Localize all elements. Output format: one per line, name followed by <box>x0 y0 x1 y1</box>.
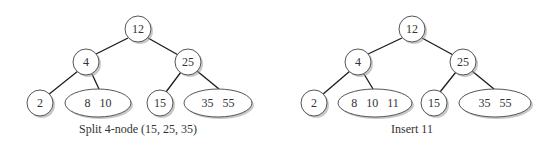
node-leaf-15: 15 <box>421 90 449 118</box>
node-leaf-15-label: 15 <box>428 96 440 110</box>
node-leaf-15-label: 15 <box>154 96 166 110</box>
edge-4-8-10 <box>92 74 99 89</box>
node-leaf-8-10-11-label: 8 10 11 <box>351 96 399 110</box>
node-right: 25 <box>175 49 203 77</box>
node-leaf-35-55-label: 35 55 <box>202 96 235 110</box>
node-leaf-15: 15 <box>147 90 175 118</box>
edge-25-35-55 <box>472 71 494 89</box>
edge-4-8-10-11 <box>364 74 373 89</box>
node-leaf-8-10-11: 8 10 11 <box>338 89 414 119</box>
node-leaf-2: 2 <box>301 90 329 118</box>
node-leaf-8-10-label: 8 10 <box>85 96 112 110</box>
node-leaf-2-label: 2 <box>311 96 317 110</box>
edge-12-4 <box>94 38 128 55</box>
caption-right: Insert 11 <box>391 122 433 136</box>
node-leaf-35-55-label: 35 55 <box>479 96 512 110</box>
tree-insert-11: 12 4 25 2 8 10 11 15 <box>301 16 533 136</box>
node-leaf-2-label: 2 <box>37 96 43 110</box>
edge-25-35-55 <box>197 71 219 89</box>
node-leaf-2: 2 <box>27 90 55 118</box>
node-right-label: 25 <box>457 55 469 69</box>
caption-left: Split 4-node (15, 25, 35) <box>79 122 197 136</box>
node-left-label: 4 <box>83 55 89 69</box>
node-root-label: 12 <box>132 22 144 36</box>
edge-12-25 <box>148 38 180 56</box>
tree-split-4-node: 12 4 25 2 8 10 15 <box>27 16 254 136</box>
two-three-four-tree-figure: 12 4 25 2 8 10 15 <box>0 0 554 148</box>
edge-4-2 <box>48 71 78 95</box>
node-right-label: 25 <box>182 55 194 69</box>
edge-25-15 <box>166 72 181 92</box>
node-root: 12 <box>125 16 153 44</box>
edge-12-25 <box>422 38 455 56</box>
edge-12-4 <box>366 38 402 55</box>
edge-4-2 <box>322 71 350 95</box>
node-leaf-35-55: 35 55 <box>459 89 533 119</box>
edge-25-15 <box>440 72 456 92</box>
node-leaf-35-55: 35 55 <box>184 89 254 119</box>
node-leaf-8-10: 8 10 <box>65 89 133 119</box>
node-right: 25 <box>450 49 478 77</box>
node-left-label: 4 <box>355 55 361 69</box>
node-root-label: 12 <box>406 22 418 36</box>
node-root: 12 <box>399 16 427 44</box>
